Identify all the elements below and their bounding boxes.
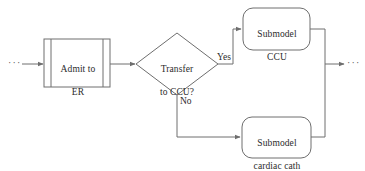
flowchart-canvas: ··· Admit to ER Transfer to CCU? Submode… [0, 0, 365, 171]
entry-ellipsis: ··· [8, 58, 22, 68]
node-admit-er-shape [44, 39, 110, 87]
edge-label-yes: Yes [217, 52, 231, 63]
edge-label-no: No [180, 96, 192, 107]
node-submodel-cardiac-cath-shape [242, 117, 311, 158]
node-submodel-ccu-shape [243, 8, 310, 50]
flowchart-svg [0, 0, 365, 171]
edge-ccu-to-merge [310, 29, 325, 64]
edge-cardiac-to-merge [311, 64, 325, 137]
exit-ellipsis: ··· [347, 58, 361, 68]
node-transfer-decision-shape [136, 33, 218, 95]
